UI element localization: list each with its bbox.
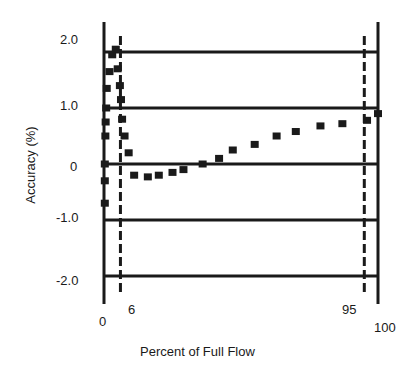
x-tick-label: 100 <box>374 320 396 335</box>
y-tick-label: 0 <box>70 159 77 174</box>
data-point <box>102 119 110 126</box>
data-point <box>105 68 113 75</box>
data-point <box>101 177 109 184</box>
data-point <box>101 200 109 207</box>
data-point <box>229 147 237 154</box>
data-point <box>338 120 346 127</box>
x-axis-title: Percent of Full Flow <box>140 344 255 359</box>
y-tick-label: -2.0 <box>56 273 78 288</box>
data-point <box>118 116 126 123</box>
x-tick-label: 6 <box>128 302 135 317</box>
data-point <box>273 133 281 140</box>
y-tick-label: 1.0 <box>60 98 78 113</box>
y-tick-label: 2.0 <box>60 32 78 47</box>
data-point <box>316 122 324 129</box>
data-point <box>251 141 259 148</box>
data-point <box>292 128 300 135</box>
data-point <box>144 173 152 180</box>
data-point <box>117 96 125 103</box>
data-point <box>121 133 129 140</box>
data-point <box>103 85 111 92</box>
x-tick-label: 95 <box>342 302 356 317</box>
data-point <box>114 65 122 72</box>
data-point <box>374 110 382 117</box>
data-point <box>102 105 110 112</box>
data-point <box>215 155 223 162</box>
data-point <box>199 161 207 168</box>
data-point <box>363 117 371 124</box>
y-tick-label: -1.0 <box>56 210 78 225</box>
data-point <box>169 169 177 176</box>
data-point <box>125 149 133 156</box>
plot-area <box>0 0 415 373</box>
data-point <box>130 172 138 179</box>
data-point <box>155 172 163 179</box>
y-axis-title: Accuracy (%) <box>23 126 38 203</box>
data-point <box>101 161 109 168</box>
data-point <box>179 166 187 173</box>
data-point <box>112 46 120 53</box>
x-tick-label: 0 <box>99 314 106 329</box>
data-point <box>101 133 109 140</box>
data-point <box>116 82 124 89</box>
